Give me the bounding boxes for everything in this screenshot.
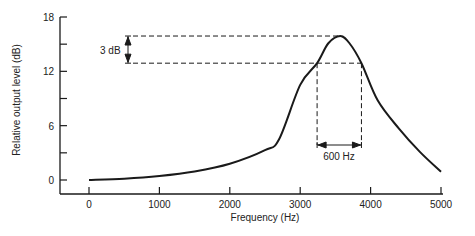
axes bbox=[60, 17, 443, 194]
y-tick-label: 0 bbox=[48, 175, 54, 186]
y-tick-label: 18 bbox=[43, 12, 55, 23]
3db-annotation-label: 3 dB bbox=[100, 45, 121, 56]
x-tick-label: 0 bbox=[86, 199, 92, 210]
x-tick-label: 1000 bbox=[148, 199, 171, 210]
x-axis-label: Frequency (Hz) bbox=[231, 212, 300, 223]
x-tick-labels: 010002000300040005000 bbox=[86, 199, 452, 210]
y-tick-label: 6 bbox=[48, 121, 54, 132]
annotations bbox=[125, 36, 361, 148]
frequency-response-chart: 061218 010002000300040005000 Frequency (… bbox=[0, 0, 475, 236]
y-ticks bbox=[60, 17, 67, 180]
arrow-left-icon bbox=[318, 142, 326, 148]
x-ticks bbox=[89, 187, 441, 194]
600hz-annotation-label: 600 Hz bbox=[323, 151, 355, 162]
arrow-right-icon bbox=[352, 142, 360, 148]
x-tick-label: 4000 bbox=[359, 199, 382, 210]
x-tick-label: 3000 bbox=[289, 199, 312, 210]
y-tick-label: 12 bbox=[43, 66, 55, 77]
y-tick-labels: 061218 bbox=[43, 12, 55, 186]
arrow-up-icon bbox=[125, 37, 131, 45]
response-curve bbox=[89, 36, 441, 180]
x-tick-label: 5000 bbox=[430, 199, 453, 210]
arrow-down-icon bbox=[125, 54, 131, 62]
y-axis-label: Relative output level (dB) bbox=[11, 44, 22, 156]
x-tick-label: 2000 bbox=[219, 199, 242, 210]
